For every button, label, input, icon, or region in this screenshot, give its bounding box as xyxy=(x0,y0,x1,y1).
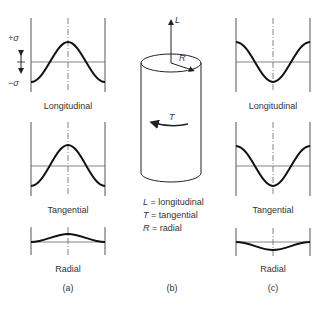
panel-c-caption: (c) xyxy=(233,283,313,293)
panel-c-tangential-plot xyxy=(236,122,310,196)
panel-c-tangential-label: Tangential xyxy=(233,205,313,215)
cylinder-T-label: T xyxy=(169,112,175,122)
legend-item-longitudinal: L = longitudinal xyxy=(143,197,204,207)
panel-b-caption: (b) xyxy=(132,283,212,293)
diagram-canvas xyxy=(0,0,325,309)
panel-c-longitudinal-plot xyxy=(236,18,310,92)
panel-a-longitudinal-plot xyxy=(31,18,105,92)
panel-a-tangential-plot xyxy=(31,122,105,196)
panel-c-radial-label: Radial xyxy=(233,264,313,274)
panel-a-longitudinal-label: Longitudinal xyxy=(28,101,108,111)
plus-sigma-label: +σ xyxy=(8,33,19,43)
legend-item-radial: R = radial xyxy=(143,223,182,233)
tangential-arrow xyxy=(154,123,188,126)
panel-a-radial-label: Radial xyxy=(28,264,108,274)
cylinder-L-label: L xyxy=(175,15,180,25)
minus-sigma-label: −σ xyxy=(8,78,19,88)
radial-arrow xyxy=(171,63,192,70)
panel-a-caption: (a) xyxy=(28,283,108,293)
sigma-scale-arrow xyxy=(17,53,25,71)
panel-c-longitudinal-label: Longitudinal xyxy=(233,101,313,111)
cylinder-R-label: R xyxy=(179,53,186,63)
panel-c-radial-plot xyxy=(236,228,310,256)
panel-a-radial-plot xyxy=(31,227,105,255)
panel-a-tangential-label: Tangential xyxy=(28,205,108,215)
legend-item-tangential: T = tangential xyxy=(143,210,198,220)
